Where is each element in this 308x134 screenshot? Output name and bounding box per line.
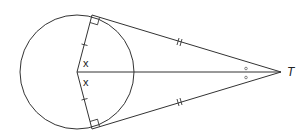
tangent-upper bbox=[92, 15, 281, 72]
angle-mark-upper-icon bbox=[245, 67, 248, 70]
diagram-canvas: x x T bbox=[0, 0, 308, 134]
point-label-T: T bbox=[287, 65, 296, 79]
angle-label-upper: x bbox=[83, 57, 89, 69]
tangent-lower bbox=[92, 72, 281, 129]
angle-mark-lower-icon bbox=[245, 76, 248, 79]
angle-label-lower: x bbox=[83, 76, 89, 88]
tangent-diagram: x x T bbox=[0, 0, 308, 134]
